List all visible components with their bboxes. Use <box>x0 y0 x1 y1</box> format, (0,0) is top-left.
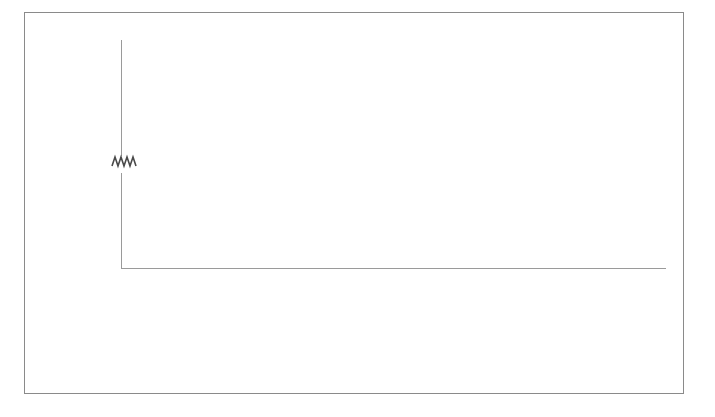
chart-frame <box>24 12 684 394</box>
chart-legend <box>25 353 685 377</box>
axis-break-icon <box>111 154 137 170</box>
lower-plot-panel <box>121 173 666 269</box>
x-axis-labels <box>121 271 666 361</box>
upper-plot-panel <box>121 40 666 156</box>
